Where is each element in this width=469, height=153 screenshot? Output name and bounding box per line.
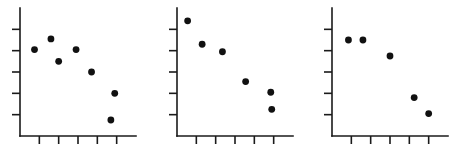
panel-right	[320, 0, 452, 153]
data-point	[387, 53, 394, 60]
data-point	[268, 106, 275, 113]
panel-middle	[165, 0, 297, 153]
data-point	[88, 69, 95, 76]
axes	[165, 0, 297, 153]
data-point	[345, 37, 352, 44]
data-point	[107, 117, 114, 124]
data-point	[360, 37, 367, 44]
data-point	[219, 48, 226, 55]
data-point	[31, 46, 38, 53]
axes	[8, 0, 140, 153]
data-point	[411, 94, 418, 101]
scatter-plot-figure	[0, 0, 469, 153]
data-point	[242, 78, 249, 85]
panel-left	[8, 0, 140, 153]
data-point	[184, 17, 191, 24]
data-point	[199, 41, 206, 48]
data-point	[267, 89, 274, 96]
axes	[320, 0, 452, 153]
data-point	[425, 110, 432, 117]
data-point	[73, 46, 80, 53]
data-point	[48, 36, 55, 43]
data-point	[55, 58, 62, 65]
data-point	[111, 90, 118, 97]
